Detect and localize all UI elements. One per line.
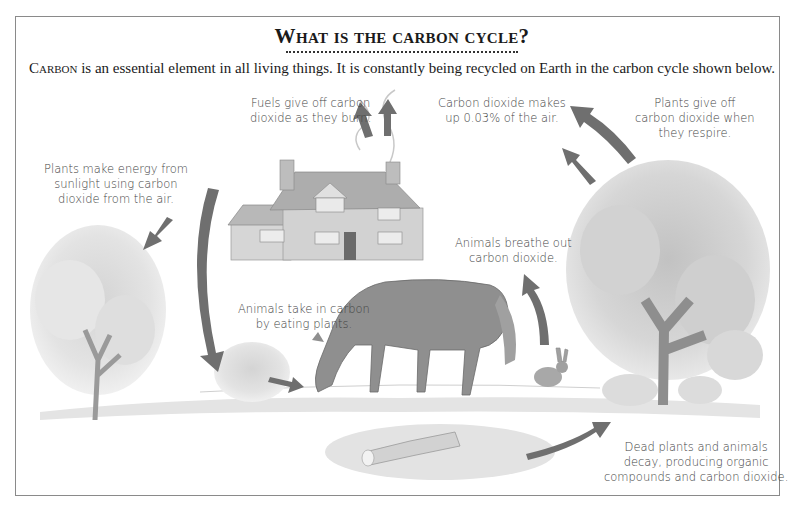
right-tree-illustration	[566, 160, 770, 406]
bush-illustration	[214, 342, 290, 402]
label-photosynthesis: Plants make energy from sunlight using c…	[44, 162, 188, 207]
breathe-out-arrow	[522, 274, 549, 345]
label-animals-breathe: Animals breathe out carbon dioxide.	[455, 236, 572, 266]
rabbit-illustration	[534, 348, 568, 387]
horse-illustration	[312, 280, 516, 395]
label-fuels: Fuels give off carbon dioxide as they bu…	[250, 96, 371, 126]
respire-arrow-large	[570, 106, 636, 164]
label-air: Carbon dioxide makes up 0.03% of the air…	[438, 96, 566, 126]
label-animals-eat: Animals take in carbon by eating plants.	[238, 302, 370, 332]
label-plants-respire: Plants give off carbon dioxide when they…	[635, 96, 755, 141]
decaying-log-illustration	[325, 424, 555, 480]
left-tree-illustration	[30, 225, 166, 420]
eating-arrow-curved	[197, 188, 224, 372]
fuel-arrow-right	[378, 99, 397, 136]
illustration-layer	[0, 0, 804, 512]
respire-arrow-small	[562, 148, 596, 185]
photosynthesis-arrow	[143, 217, 173, 250]
label-decay: Dead plants and animals decay, producing…	[604, 440, 788, 485]
